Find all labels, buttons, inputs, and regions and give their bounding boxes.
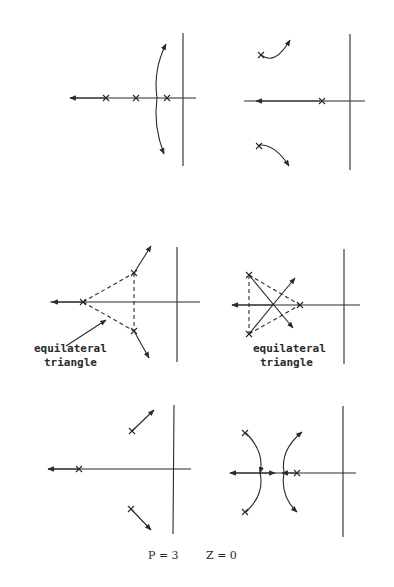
panel-3: equilateral triangle xyxy=(34,246,200,369)
branch-lower xyxy=(134,331,149,358)
branch-lower xyxy=(259,145,289,166)
pole-marker xyxy=(128,506,134,512)
branch-upper-out xyxy=(283,432,302,473)
label-triangle: triangle xyxy=(44,356,97,369)
panel-4: equilateral triangle xyxy=(232,249,360,369)
branch-lower-pole-cross xyxy=(249,278,295,334)
panel-2 xyxy=(244,34,365,170)
branch-lower-out xyxy=(283,473,297,512)
pole-marker xyxy=(242,509,248,515)
pole-marker xyxy=(258,52,264,58)
branch-upper xyxy=(156,44,166,98)
panel-5 xyxy=(48,405,191,534)
label-equilateral: equilateral xyxy=(34,342,107,355)
caption-poles: P = 3 xyxy=(148,549,179,562)
root-locus-figure: equilateral triangle equilateral triangl… xyxy=(0,0,394,587)
caption-zeros: Z = 0 xyxy=(206,549,237,562)
branch-upper-to-axis xyxy=(246,433,261,473)
branch-upper-pole-cross xyxy=(249,275,293,328)
branch-upper xyxy=(134,246,151,273)
pole-marker xyxy=(256,143,262,149)
pole-marker xyxy=(242,430,248,436)
branch-upper xyxy=(261,40,290,58)
label-equilateral: equilateral xyxy=(253,342,326,355)
pole-marker xyxy=(129,428,135,434)
label-triangle: triangle xyxy=(260,356,313,369)
pole-marker xyxy=(131,328,137,334)
branch-lower xyxy=(131,509,151,530)
branch-lower-to-axis xyxy=(246,473,261,512)
panel-1 xyxy=(70,33,196,166)
branch-upper xyxy=(132,410,154,431)
branch-lower xyxy=(156,98,164,154)
panel-6 xyxy=(230,406,356,537)
